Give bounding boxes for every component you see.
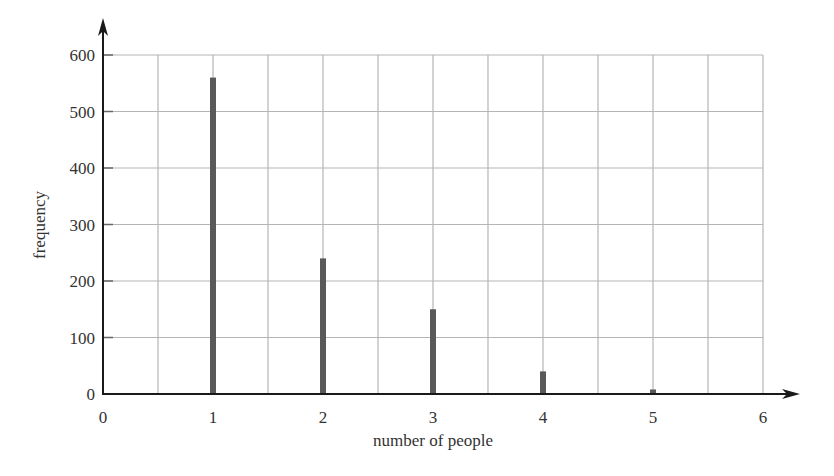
y-tick-labels: 0100200300400500600 (70, 46, 96, 404)
y-tick-label: 300 (70, 216, 96, 235)
y-tick-label: 100 (70, 329, 96, 348)
bar-3 (430, 309, 436, 394)
x-tick-label: 0 (99, 408, 108, 427)
y-tick-label: 200 (70, 272, 96, 291)
x-tick-label: 5 (649, 408, 658, 427)
bar-2 (320, 258, 326, 394)
y-axis-title: frequency (30, 191, 49, 259)
x-tick-label: 6 (759, 408, 768, 427)
x-tick-label: 2 (319, 408, 328, 427)
x-axis-title: number of people (373, 431, 493, 450)
y-tick-label: 600 (70, 46, 96, 65)
x-tick-label: 1 (209, 408, 218, 427)
y-tick-label: 400 (70, 159, 96, 178)
y-tick-label: 0 (87, 385, 96, 404)
bar-chart: 0100200300400500600 0123456 number of pe… (0, 0, 834, 476)
x-tick-labels: 0123456 (99, 408, 768, 427)
axes (98, 18, 800, 399)
bar-4 (540, 371, 546, 394)
bar-1 (210, 78, 216, 394)
y-tick-label: 500 (70, 103, 96, 122)
x-tick-label: 3 (429, 408, 438, 427)
x-tick-label: 4 (539, 408, 548, 427)
